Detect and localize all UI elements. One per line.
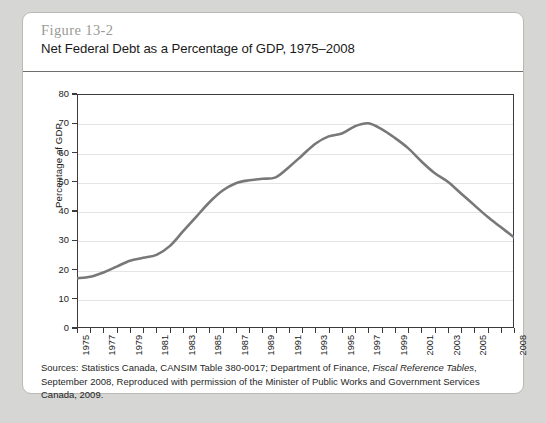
x-tick-mark [355,328,356,333]
figure-title: Net Federal Debt as a Percentage of GDP,… [41,39,523,58]
x-tick-mark [209,328,210,333]
source-line-1-italic: Fiscal Reference Tables [372,362,474,373]
y-tick-label: 70 [43,117,69,128]
source-line-1-pre: Sources: Statistics Canada, CANSIM Table… [41,362,372,373]
x-tick-label: 1981 [160,335,170,355]
x-tick-mark [461,328,462,333]
figure-number: Figure 13-2 [41,22,523,38]
x-tick-mark [276,328,277,333]
x-tick-label: 1985 [213,335,223,355]
x-tick-mark [77,328,78,333]
source-line-2: 2008, Reproduced with permission of the … [41,376,480,401]
plot-frame [77,94,514,328]
figure-card: Figure 13-2 Net Federal Debt as a Percen… [22,12,524,394]
chart-area: Percentage of GDP 01020304050607080 1975… [23,72,523,357]
x-tick-mark [302,328,303,333]
y-tick-label: 0 [43,322,69,333]
figure-header: Figure 13-2 Net Federal Debt as a Percen… [23,13,523,58]
x-tick-mark [117,328,118,333]
x-tick-label: 1999 [399,335,409,355]
gridline [78,154,513,155]
x-tick-mark [315,328,316,333]
x-tick-mark [514,328,515,333]
x-tick-label: 1987 [240,335,250,355]
x-tick-label: 2003 [452,335,462,355]
x-tick-label: 1977 [107,335,117,355]
x-tick-label: 2005 [478,335,488,355]
x-tick-mark [130,328,131,333]
x-tick-label: 1991 [293,335,303,355]
y-tick-label: 60 [43,147,69,158]
x-tick-mark [156,328,157,333]
x-tick-label: 1989 [266,335,276,355]
y-tick-label: 50 [43,176,69,187]
x-tick-mark [90,328,91,333]
x-tick-mark [143,328,144,333]
x-tick-mark [448,328,449,333]
y-tick-label: 30 [43,234,69,245]
x-tick-label: 1983 [187,335,197,355]
x-tick-mark [501,328,502,333]
x-tick-mark [262,328,263,333]
y-tick-label: 80 [43,88,69,99]
x-tick-mark [395,328,396,333]
x-tick-mark [196,328,197,333]
x-tick-mark [236,328,237,333]
x-tick-mark [382,328,383,333]
x-tick-mark [289,328,290,333]
x-tick-label: 1993 [319,335,329,355]
x-tick-label: 1997 [372,335,382,355]
gridline [78,241,513,242]
gridline [78,212,513,213]
gridline [78,300,513,301]
gridline [78,271,513,272]
x-tick-mark [183,328,184,333]
gridline [78,183,513,184]
x-tick-mark [421,328,422,333]
x-tick-mark [249,328,250,333]
gridline [78,124,513,125]
x-tick-mark [408,328,409,333]
x-tick-mark [342,328,343,333]
y-tick-label: 20 [43,264,69,275]
x-tick-mark [170,328,171,333]
x-tick-label: 1975 [81,335,91,355]
x-tick-mark [368,328,369,333]
x-tick-mark [329,328,330,333]
x-tick-mark [103,328,104,333]
x-tick-label: 1979 [134,335,144,355]
x-tick-mark [435,328,436,333]
x-tick-label: 2008 [518,335,528,355]
source-note: Sources: Statistics Canada, CANSIM Table… [41,361,507,402]
x-tick-label: 1995 [346,335,356,355]
y-tick-label: 40 [43,205,69,216]
x-tick-mark [488,328,489,333]
y-tick-label: 10 [43,293,69,304]
x-tick-label: 2001 [425,335,435,355]
x-tick-mark [474,328,475,333]
x-tick-mark [223,328,224,333]
